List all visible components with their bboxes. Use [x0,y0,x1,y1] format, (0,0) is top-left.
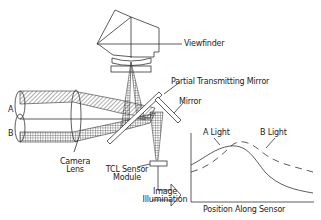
x-axis-label: Position Along Sensor [203,206,285,214]
legend-b-light: B Light [260,129,287,137]
label-beam-a: A [8,106,13,114]
label-image-illumination: Image Illumination [140,188,190,204]
tcl-sensor-diagram: Viewfinder Partial Transmitting Mirror M… [0,0,321,220]
label-partial-mirror: Partial Transmitting Mirror [171,78,269,86]
label-mirror: Mirror [179,98,201,106]
legend-a-light: A Light [203,129,230,137]
series-b-light [191,142,313,172]
series-a-light [191,146,313,193]
label-camera-lens: Camera Lens [55,158,95,174]
viewfinder-prism [97,10,170,72]
illumination-chart [191,133,314,202]
label-beam-b: B [8,130,13,138]
label-tcl-sensor: TCL Sensor Module [102,166,152,182]
label-viewfinder: Viewfinder [184,40,224,48]
